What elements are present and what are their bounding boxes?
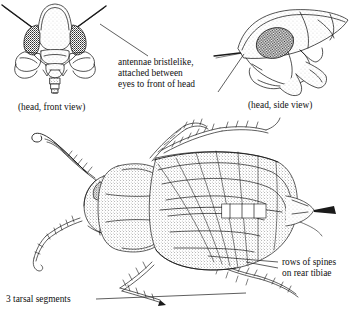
antennae-annotation-line1: antennae bristlelike, (118, 57, 194, 67)
head-front-view-caption: (head, front view) (18, 102, 85, 113)
frons-plate (38, 4, 72, 51)
antennae-annotation-line3: eyes to front of head (118, 79, 195, 89)
spines-annotation: rows of spines on rear tibiae (282, 257, 337, 278)
clypeus (41, 50, 69, 66)
antennae-annotation-line2: attached between (118, 68, 183, 78)
wing-overlap-patch (222, 204, 266, 218)
labium (50, 78, 60, 84)
spines-annotation-line2: on rear tibiae (282, 268, 331, 278)
spines-annotation-line1: rows of spines (282, 257, 337, 267)
tarsal-annotation: 3 tarsal segments (6, 294, 71, 304)
cockroach-identification-plate: (head, front view) (head, side view) (0, 0, 358, 316)
labrum (46, 64, 64, 79)
head-side-view-caption: (head, side view) (248, 100, 312, 111)
